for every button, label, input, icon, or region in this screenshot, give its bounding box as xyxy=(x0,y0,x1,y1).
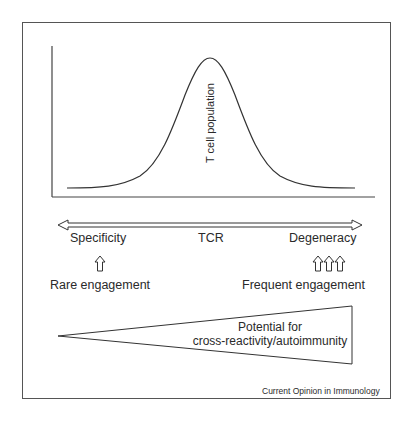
up-arrow-icon xyxy=(95,256,105,271)
rare-engagement-label: Rare engagement xyxy=(50,278,150,292)
degeneracy-label: Degeneracy xyxy=(289,231,356,245)
wedge-caption: Potential for cross-reactivity/autoimmun… xyxy=(190,320,350,348)
tcr-double-arrow xyxy=(58,220,362,230)
wedge-caption-line2: cross-reactivity/autoimmunity xyxy=(190,334,350,348)
specificity-label: Specificity xyxy=(70,231,126,245)
wedge-caption-line1: Potential for xyxy=(190,320,350,334)
frequent-engagement-label: Frequent engagement xyxy=(242,278,365,292)
triple-up-arrow-icon xyxy=(313,256,345,271)
t-cell-population-label: T cell population xyxy=(204,83,216,163)
diagram-graphics xyxy=(0,0,409,421)
journal-credit: Current Opinion in Immunology xyxy=(262,386,380,396)
tcr-label: TCR xyxy=(198,231,224,245)
